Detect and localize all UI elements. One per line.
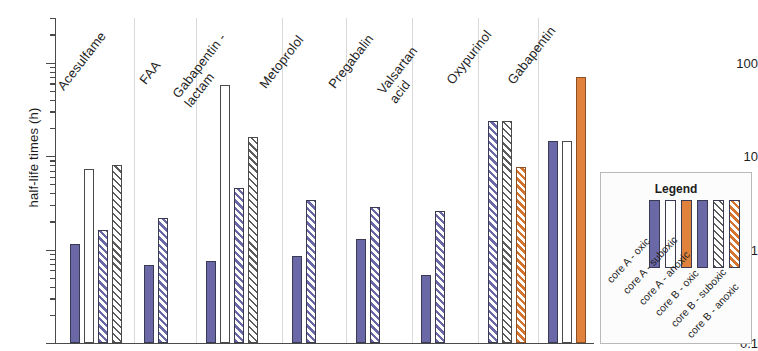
bar [220, 85, 230, 343]
bar [206, 261, 216, 343]
y-tick-minor [50, 77, 55, 78]
y-tick-minor [50, 298, 55, 299]
y-tick-minor [50, 177, 55, 178]
y-tick-minor [50, 171, 55, 172]
y-tick-label: 10 [716, 150, 758, 163]
legend: Legend core A - oxiccore A - suboxiccore… [600, 172, 752, 344]
legend-swatch [729, 200, 740, 268]
bar [502, 121, 512, 343]
bar [548, 141, 558, 343]
y-tick-minor [50, 111, 55, 112]
bar [98, 230, 108, 343]
y-tick-minor [50, 165, 55, 166]
y-tick-minor [50, 254, 55, 255]
y-tick-minor [50, 184, 55, 185]
y-tick-label: 100 [716, 56, 758, 69]
y-tick-minor [50, 160, 55, 161]
bar [488, 121, 498, 343]
y-tick-minor [50, 259, 55, 260]
group-separator [478, 18, 479, 343]
y-tick-minor [50, 128, 55, 129]
bar [370, 207, 380, 343]
bar [306, 200, 316, 343]
y-tick-minor [50, 18, 55, 19]
y-tick-minor [50, 264, 55, 265]
y-tick-minor [50, 72, 55, 73]
group-separator [538, 18, 539, 343]
bar [234, 188, 244, 343]
bar [516, 167, 526, 343]
y-tick-major [46, 250, 55, 251]
y-tick-minor [50, 270, 55, 271]
bar [144, 265, 154, 343]
bar [248, 137, 258, 343]
y-tick-minor [50, 100, 55, 101]
y-tick-minor [50, 278, 55, 279]
y-tick-major [46, 156, 55, 157]
bar [576, 77, 586, 343]
y-tick-minor [50, 315, 55, 316]
bar [84, 169, 94, 343]
legend-swatch [697, 200, 708, 268]
bar [356, 239, 366, 343]
legend-swatch [713, 200, 724, 268]
group-separator [134, 18, 135, 343]
bar [292, 256, 302, 343]
bar [421, 275, 431, 343]
x-axis-line [55, 343, 594, 344]
y-tick-minor [50, 221, 55, 222]
y-tick-minor [50, 91, 55, 92]
bar [562, 141, 572, 343]
bar [70, 244, 80, 343]
y-tick-minor [50, 287, 55, 288]
bar [435, 211, 445, 343]
y-tick-minor [50, 205, 55, 206]
y-tick-major [46, 343, 55, 344]
legend-title: Legend [601, 182, 751, 196]
y-axis-title: half-life times (h) [26, 73, 41, 243]
y-tick-minor [50, 34, 55, 35]
y-tick-major [46, 63, 55, 64]
bar [112, 165, 122, 343]
bar [158, 218, 168, 343]
y-tick-minor [50, 67, 55, 68]
y-tick-minor [50, 193, 55, 194]
